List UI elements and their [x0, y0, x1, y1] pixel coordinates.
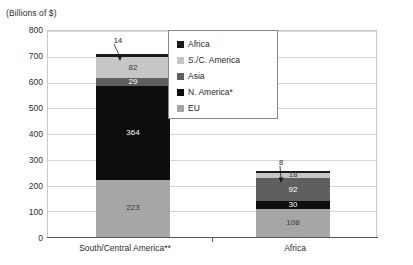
- y-tick-800: 800: [3, 25, 43, 35]
- segment-label-eu-bar2: 108: [256, 219, 330, 227]
- callout-arrow-bar2: [276, 166, 288, 184]
- stacked-bar-chart: (Billions of $) 800 700 600 500 400 300 …: [0, 0, 413, 265]
- callout-arrow-bar1: [112, 44, 124, 62]
- legend-label-sc-america: S./C. America: [188, 56, 240, 65]
- x-label-africa: Africa: [215, 243, 375, 253]
- segment-eu-bar1[interactable]: 223: [96, 180, 170, 237]
- segment-n-america-bar2[interactable]: 30: [256, 201, 330, 209]
- bar-africa[interactable]: 18 92 30 108: [256, 171, 330, 237]
- legend-item-n-america[interactable]: N. America*: [177, 84, 277, 100]
- legend-label-n-america: N. America*: [188, 88, 233, 97]
- legend: Africa S./C. America Asia N. America* EU: [168, 30, 278, 119]
- segment-label-sc-america-bar1: 82: [96, 64, 170, 72]
- x-axis-tick-center: [212, 238, 213, 242]
- legend-swatch-asia: [177, 73, 184, 80]
- y-tick-0: 0: [3, 233, 43, 243]
- legend-item-africa[interactable]: Africa: [177, 36, 277, 52]
- legend-item-sc-america[interactable]: S./C. America: [177, 52, 277, 68]
- y-tick-700: 700: [3, 51, 43, 61]
- legend-label-asia: Asia: [188, 72, 205, 81]
- legend-swatch-sc-america: [177, 57, 184, 64]
- segment-label-eu-bar1: 223: [96, 204, 170, 212]
- legend-label-eu: EU: [188, 104, 200, 113]
- y-tick-600: 600: [3, 77, 43, 87]
- y-axis-labels: 800 700 600 500 400 300 200 100 0: [0, 30, 43, 238]
- segment-n-america-bar1[interactable]: 364: [96, 86, 170, 180]
- y-tick-400: 400: [3, 129, 43, 139]
- y-tick-100: 100: [3, 207, 43, 217]
- y-tick-500: 500: [3, 103, 43, 113]
- segment-sc-america-bar1[interactable]: 82: [96, 57, 170, 78]
- legend-swatch-n-america: [177, 89, 184, 96]
- segment-label-n-america-bar1: 364: [96, 129, 170, 137]
- y-tick-200: 200: [3, 181, 43, 191]
- segment-asia-bar1[interactable]: 29: [96, 78, 170, 85]
- legend-item-asia[interactable]: Asia: [177, 68, 277, 84]
- legend-swatch-eu: [177, 105, 184, 112]
- x-label-south-central-america: South/Central America**: [45, 243, 205, 253]
- segment-asia-bar2[interactable]: 92: [256, 178, 330, 202]
- segment-label-asia-bar2: 92: [256, 186, 330, 194]
- legend-item-eu[interactable]: EU: [177, 100, 277, 116]
- axis-unit-caption: (Billions of $): [6, 8, 57, 18]
- legend-swatch-africa: [177, 41, 184, 48]
- legend-label-africa: Africa: [188, 40, 210, 49]
- bar-south-central-america[interactable]: 82 29 364 223: [96, 54, 170, 237]
- segment-label-n-america-bar2: 30: [256, 201, 330, 209]
- y-tick-300: 300: [3, 155, 43, 165]
- segment-eu-bar2[interactable]: 108: [256, 209, 330, 237]
